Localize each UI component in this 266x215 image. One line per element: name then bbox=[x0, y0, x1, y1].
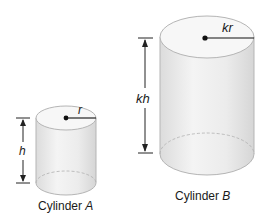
cylinder-b-height-label: kh bbox=[136, 91, 150, 106]
similar-cylinders-diagram: r h Cylinder A kr kh Cy bbox=[0, 0, 266, 215]
cylinder-b: kr kh Cylinder B bbox=[136, 16, 254, 203]
cylinder-b-radius-label: kr bbox=[222, 20, 234, 35]
cylinder-b-height-dimension: kh bbox=[136, 38, 153, 153]
cylinder-b-caption: Cylinder B bbox=[175, 189, 230, 203]
cylinder-a-caption: Cylinder A bbox=[38, 199, 93, 213]
cylinder-a-height-dimension: h bbox=[16, 118, 30, 183]
cylinder-a: r h Cylinder A bbox=[16, 103, 96, 213]
cylinder-a-height-label: h bbox=[19, 144, 26, 158]
